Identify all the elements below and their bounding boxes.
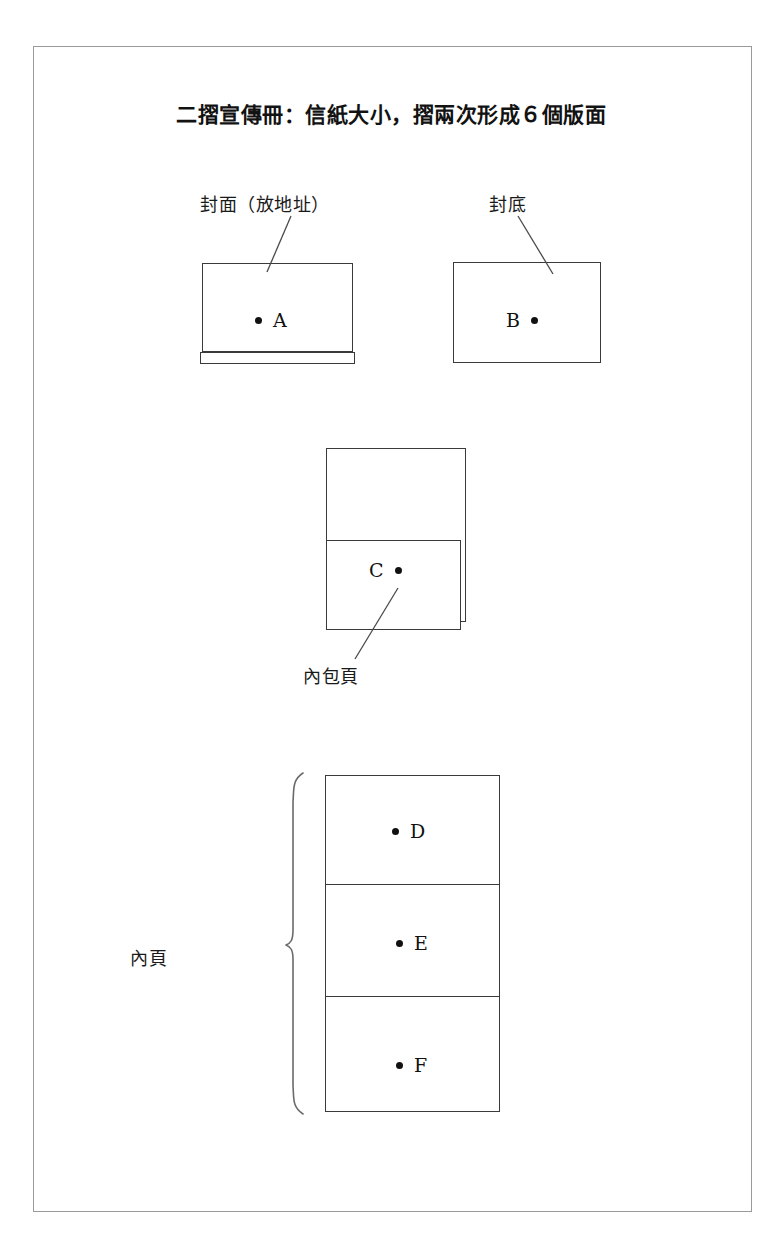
panel-a: [202, 263, 353, 352]
bullet-dot-icon: [392, 828, 399, 835]
diagram-page: 二摺宣傳冊：信紙大小，摺兩次形成６個版面 封面（放地址） 封底 A B C 內包…: [0, 0, 782, 1252]
label-inner-wrap-page: 內包頁: [303, 662, 359, 688]
panel-divider-d-e: [325, 884, 500, 885]
marker-a: A: [255, 311, 287, 330]
panel-divider-e-f: [325, 996, 500, 997]
marker-c: C: [369, 561, 402, 580]
bullet-dot-icon: [395, 567, 402, 574]
page-title: 二摺宣傳冊：信紙大小，摺兩次形成６個版面: [0, 98, 782, 128]
bullet-dot-icon: [255, 317, 262, 324]
label-back-cover: 封底: [489, 190, 526, 216]
panel-letter-d: D: [410, 822, 425, 841]
bullet-dot-icon: [531, 317, 538, 324]
bullet-dot-icon: [396, 1062, 403, 1069]
panel-letter-a: A: [273, 311, 287, 330]
marker-b: B: [506, 311, 538, 330]
marker-f: F: [396, 1056, 427, 1075]
panel-letter-b: B: [506, 311, 520, 330]
label-inner-pages: 內頁: [130, 944, 167, 970]
panel-letter-f: F: [414, 1056, 427, 1075]
marker-e: E: [396, 934, 428, 953]
panel-letter-c: C: [369, 561, 384, 580]
label-front-cover: 封面（放地址）: [200, 190, 330, 216]
panel-c: [326, 540, 461, 630]
panel-a-address-strip: [200, 352, 355, 364]
panel-letter-e: E: [414, 934, 428, 953]
marker-d: D: [392, 822, 425, 841]
bullet-dot-icon: [396, 940, 403, 947]
